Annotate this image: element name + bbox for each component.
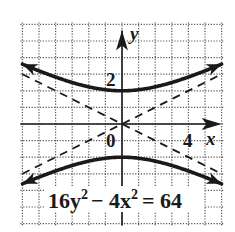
- y-axis-label: y: [128, 23, 139, 44]
- equation-rhs: = 64: [142, 188, 182, 213]
- equation-exp-a: 2: [81, 187, 88, 202]
- equation-exp-b: 2: [131, 187, 138, 202]
- equation-term-b: − 4x: [91, 188, 131, 213]
- equation-label: 16y2− 4x2= 64: [44, 186, 204, 213]
- x-axis-label: x: [205, 128, 216, 149]
- hyperbola-graph: y x 0 4 2 16y2− 4x2= 64: [0, 0, 235, 232]
- svg-text:16y2− 4x2= 64: 16y2− 4x2= 64: [48, 187, 182, 213]
- origin-label: 0: [106, 130, 116, 151]
- y-tick-label-2: 2: [106, 69, 116, 90]
- equation-term-a: 16y: [48, 188, 81, 213]
- x-tick-label-4: 4: [183, 130, 193, 151]
